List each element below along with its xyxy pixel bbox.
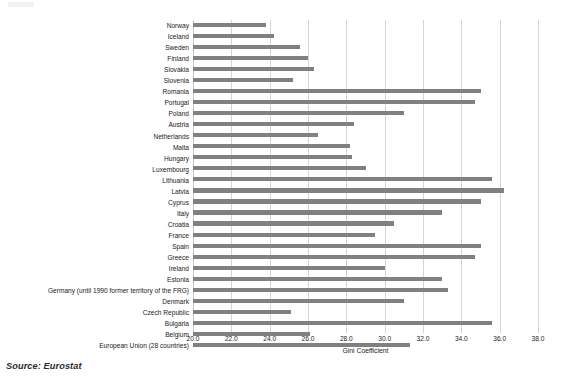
bar[interactable] (193, 111, 404, 115)
x-tick-label: 36.0 (493, 335, 506, 342)
bar-row (193, 285, 538, 296)
bar-row (193, 274, 538, 285)
bar-rows (193, 20, 538, 333)
category-label: Latvia (0, 186, 189, 197)
category-label: Estonia (0, 274, 189, 285)
category-label: France (0, 230, 189, 241)
bar[interactable] (193, 266, 385, 270)
bar[interactable] (193, 177, 492, 181)
category-label: Germany (until 1990 former territory of … (0, 285, 189, 296)
source-note: Source: Eurostat (6, 361, 82, 371)
plot-area (193, 20, 538, 333)
x-tick-label: 32.0 (417, 335, 430, 342)
bar[interactable] (193, 244, 481, 248)
category-label: Poland (0, 108, 189, 119)
x-tick-label: 30.0 (378, 335, 391, 342)
bar[interactable] (193, 210, 442, 214)
bar-row (193, 20, 538, 31)
category-label: Portugal (0, 97, 189, 108)
bar[interactable] (193, 122, 354, 126)
x-tick-label: 22.0 (225, 335, 238, 342)
x-axis-ticks: 20.022.024.026.028.030.032.034.036.038.0 (193, 335, 538, 347)
x-tick-label: 38.0 (532, 335, 545, 342)
bar-row (193, 153, 538, 164)
bar-row (193, 186, 538, 197)
bar-row (193, 230, 538, 241)
page-artifact (8, 2, 34, 7)
bar[interactable] (193, 100, 475, 104)
category-label: Cyprus (0, 197, 189, 208)
bar-row (193, 219, 538, 230)
bar-row (193, 119, 538, 130)
bar-row (193, 53, 538, 64)
x-tick-label: 34.0 (455, 335, 468, 342)
bar-row (193, 142, 538, 153)
category-label: Norway (0, 20, 189, 31)
category-label: Greece (0, 252, 189, 263)
bar[interactable] (193, 288, 448, 292)
category-label: Slovenia (0, 75, 189, 86)
bar-row (193, 263, 538, 274)
x-tick-label: 28.0 (340, 335, 353, 342)
bar[interactable] (193, 310, 291, 314)
category-label: Slovakia (0, 64, 189, 75)
category-label: Ireland (0, 263, 189, 274)
bar[interactable] (193, 233, 375, 237)
bar[interactable] (193, 166, 366, 170)
bar[interactable] (193, 277, 442, 281)
bar-row (193, 307, 538, 318)
bar-row (193, 86, 538, 97)
bar-row (193, 131, 538, 142)
bar-row (193, 208, 538, 219)
bar[interactable] (193, 144, 350, 148)
category-label: Luxembourg (0, 164, 189, 175)
bar[interactable] (193, 155, 352, 159)
category-label: Finland (0, 53, 189, 64)
category-label: Italy (0, 208, 189, 219)
bar-row (193, 97, 538, 108)
x-tick-label: 24.0 (263, 335, 276, 342)
category-label: Bulgaria (0, 318, 189, 329)
gini-coefficient-bar-chart: NorwayIcelandSwedenFinlandSlovakiaSloven… (0, 0, 581, 382)
bar-row (193, 318, 538, 329)
bar-row (193, 108, 538, 119)
category-label: Iceland (0, 31, 189, 42)
bar-row (193, 164, 538, 175)
bar-row (193, 64, 538, 75)
bar[interactable] (193, 67, 314, 71)
bar[interactable] (193, 56, 308, 60)
bar[interactable] (193, 188, 504, 192)
bar[interactable] (193, 45, 300, 49)
gridline-38 (538, 20, 539, 333)
bar-row (193, 42, 538, 53)
bar[interactable] (193, 199, 481, 203)
bar[interactable] (193, 255, 475, 259)
bar[interactable] (193, 78, 293, 82)
bar-row (193, 296, 538, 307)
bar-row (193, 75, 538, 86)
category-label: Croatia (0, 219, 189, 230)
bar-row (193, 252, 538, 263)
category-label: Belgium (0, 329, 189, 340)
bar[interactable] (193, 89, 481, 93)
bar[interactable] (193, 133, 318, 137)
bar[interactable] (193, 23, 266, 27)
category-label: Czech Republic (0, 307, 189, 318)
category-label: Austria (0, 119, 189, 130)
category-label: European Union (28 countries) (0, 340, 189, 351)
category-label: Romania (0, 86, 189, 97)
category-label: Hungary (0, 153, 189, 164)
category-axis-labels: NorwayIcelandSwedenFinlandSlovakiaSloven… (0, 20, 189, 333)
bar[interactable] (193, 34, 274, 38)
bar[interactable] (193, 221, 394, 225)
bar-row (193, 197, 538, 208)
bar[interactable] (193, 299, 404, 303)
bar[interactable] (193, 321, 492, 325)
x-tick-label: 20.0 (187, 335, 200, 342)
category-label: Netherlands (0, 131, 189, 142)
category-label: Lithuania (0, 175, 189, 186)
bar-row (193, 241, 538, 252)
category-label: Denmark (0, 296, 189, 307)
category-label: Spain (0, 241, 189, 252)
category-label: Sweden (0, 42, 189, 53)
